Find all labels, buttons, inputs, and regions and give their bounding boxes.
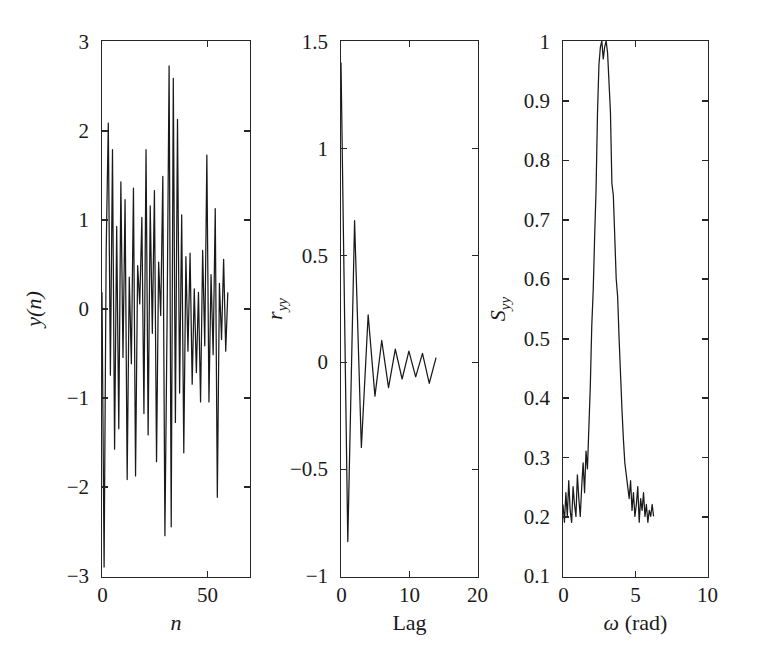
xaxis-unit: (rad) [619,610,667,635]
yaxis-subscript: yy [497,297,513,310]
xtick-label: 0 [558,585,569,606]
ytick-label: 0.2 [0,506,550,527]
ytick-label: 0.5 [0,328,550,349]
ytick-mark [702,457,709,459]
yaxis-title-power-spectrum: Syy [487,297,512,321]
ytick-label: 0.3 [0,447,550,468]
ytick-mark [562,457,569,459]
chart-panel-power-spectrum: 10.90.80.70.60.50.40.30.20.10510ω (rad)S… [0,0,757,665]
ytick-mark [702,100,709,102]
plot-area-power-spectrum [562,40,709,578]
ytick-label: 0.9 [0,91,550,112]
data-curve-power-spectrum [563,41,707,576]
xaxis-symbol: ω [604,610,620,635]
figure-container: 3210−1−2−3050ny(n)1.510.50−0.5−101020Lag… [0,0,757,665]
ytick-mark [562,516,569,518]
ytick-mark [702,160,709,162]
ytick-label: 1 [0,31,550,52]
xaxis-title-power-spectrum: ω (rad) [604,612,668,634]
yaxis-symbol: S [485,310,510,321]
ytick-mark [562,100,569,102]
ytick-mark [562,160,569,162]
ytick-label: 0.1 [0,566,550,587]
xtick-label: 5 [630,585,641,606]
ytick-label: 0.6 [0,269,550,290]
series-path [563,41,654,522]
xtick-mark [635,40,637,47]
ytick-mark [702,219,709,221]
ytick-mark [702,338,709,340]
ytick-mark [562,278,569,280]
ytick-mark [702,516,709,518]
ytick-label: 0.8 [0,150,550,171]
xtick-label: 10 [697,585,718,606]
ytick-mark [702,397,709,399]
xtick-mark [635,571,637,578]
ytick-mark [562,338,569,340]
ytick-label: 0.7 [0,209,550,230]
ytick-mark [562,397,569,399]
ytick-mark [562,219,569,221]
ytick-label: 0.4 [0,388,550,409]
ytick-mark [702,278,709,280]
